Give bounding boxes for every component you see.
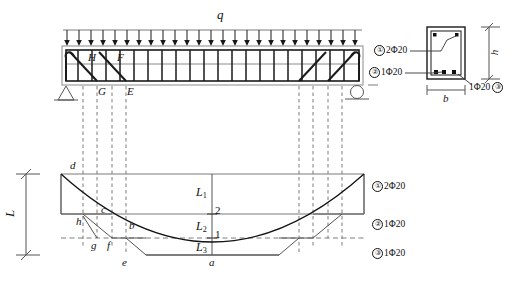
- beam-outline-outer: [62, 46, 363, 85]
- legend-note-3-num: ③: [372, 248, 383, 259]
- section-note-2-text: 1Φ20: [381, 67, 402, 77]
- band-label-L3-sub: 3: [203, 246, 207, 255]
- section-note-2: ②1Φ20: [369, 67, 402, 78]
- beam-diagram-figure: [0, 0, 516, 289]
- diagram-point-c: c: [101, 204, 106, 215]
- section-bottom-bars: [434, 70, 456, 74]
- band-label-L3-text: L: [196, 240, 203, 254]
- band-label-L2-text: L: [196, 219, 203, 233]
- legend-note-1: ①2Φ20: [372, 181, 405, 192]
- diagram-point-g: g: [91, 240, 97, 251]
- band-label-L1-text: L: [196, 185, 203, 199]
- section-note-1: ①2Φ20: [374, 45, 407, 56]
- center-mark-2: 2: [215, 205, 221, 216]
- pinned-support: [54, 86, 78, 100]
- legend-note-3: ③1Φ20: [372, 248, 405, 259]
- diagram-point-f: f: [107, 240, 110, 251]
- diagram-point-a: a: [209, 257, 215, 268]
- legend-note-3-text: 1Φ20: [384, 248, 405, 258]
- beam-point-E: E: [127, 86, 134, 97]
- beam-outline-inner: [66, 50, 359, 81]
- section-stirrup: [431, 31, 461, 75]
- band-label-L2: L2: [196, 220, 207, 234]
- section-note-3-text: 1Φ20: [469, 82, 490, 92]
- section-note-3-num: ③: [492, 82, 503, 93]
- band-label-L1-sub: 1: [203, 191, 207, 200]
- legend-note-1-num: ①: [372, 181, 383, 192]
- center-mark-1: 1: [215, 229, 221, 240]
- band-label-L2-sub: 2: [203, 225, 207, 234]
- section-top-bars: [433, 33, 459, 37]
- load-label: q: [217, 8, 224, 21]
- section-note-1-num: ①: [374, 45, 385, 56]
- legend-note-2: ②1Φ20: [372, 219, 405, 230]
- diagram-point-h: h: [76, 216, 82, 227]
- bent-up-bars-right: [299, 52, 359, 81]
- section-note-1-text: 2Φ20: [386, 45, 407, 55]
- span-dimension-label: L: [3, 210, 16, 217]
- band-label-L3: L3: [196, 241, 207, 255]
- section-width-label: b: [443, 93, 449, 104]
- diagram-point-e: e: [122, 257, 127, 268]
- diagram-point-d: d: [70, 160, 76, 171]
- band-label-L1: L1: [196, 186, 207, 200]
- section-note-3: 1Φ20③: [469, 82, 503, 93]
- beam-point-G: G: [98, 86, 106, 97]
- legend-note-2-text: 1Φ20: [384, 219, 405, 229]
- roller-support: [345, 86, 369, 100]
- legend-note-1-text: 2Φ20: [384, 181, 405, 191]
- span-dimension: [16, 169, 40, 260]
- section-note-2-num: ②: [369, 67, 380, 78]
- distributed-load-arrows: [64, 30, 358, 46]
- section-height-label: h: [489, 50, 500, 56]
- diagram-point-b: b: [129, 220, 135, 231]
- legend-note-2-num: ②: [372, 219, 383, 230]
- section-leader-lines: [405, 36, 472, 85]
- beam-point-H: H: [88, 52, 96, 63]
- beam-point-F: F: [117, 52, 124, 63]
